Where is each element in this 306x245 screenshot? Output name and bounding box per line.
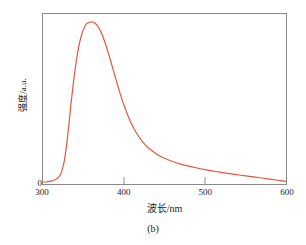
spectrum-curve: [43, 22, 286, 182]
x-tick-marks: [124, 177, 205, 184]
figure-panel: 强度/a.u. 0 300 400 500 600 波长/nm (b): [0, 0, 306, 245]
x-axis-label: 波长/nm: [42, 202, 287, 215]
figure-caption: (b): [0, 222, 306, 235]
x-tick-label-500: 500: [185, 186, 225, 198]
y-axis-label: 强度/a.u.: [16, 60, 30, 130]
x-tick-label-400: 400: [104, 186, 144, 198]
x-tick-label-300: 300: [22, 186, 62, 198]
plot-area: [42, 13, 287, 185]
spectrum-curve-svg: [43, 14, 286, 184]
x-tick-label-600: 600: [267, 186, 306, 198]
